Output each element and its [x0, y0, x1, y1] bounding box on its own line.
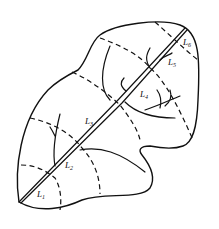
segment-line-4	[100, 38, 193, 140]
segment-line-5	[155, 22, 198, 60]
label-l1: L1	[36, 189, 45, 200]
vein-mid-left	[103, 46, 111, 100]
midrib-parallel	[21, 30, 187, 203]
vein-left-lower	[54, 114, 60, 166]
vein-mid-hook	[121, 78, 126, 91]
label-l5: L5	[167, 57, 176, 68]
vein-right-lower	[80, 149, 145, 172]
midrib	[19, 28, 185, 202]
vein-right-fork2	[165, 90, 171, 106]
label-l6: L6	[182, 37, 191, 48]
label-l3: L3	[84, 116, 93, 127]
vein-left-lower-tick	[50, 127, 55, 136]
segment-line-1	[21, 165, 61, 210]
label-l2: L2	[64, 160, 73, 171]
leaf-diagram: L1 L2 L3 L4 L5 L6	[0, 0, 219, 229]
label-l4: L4	[139, 89, 148, 100]
